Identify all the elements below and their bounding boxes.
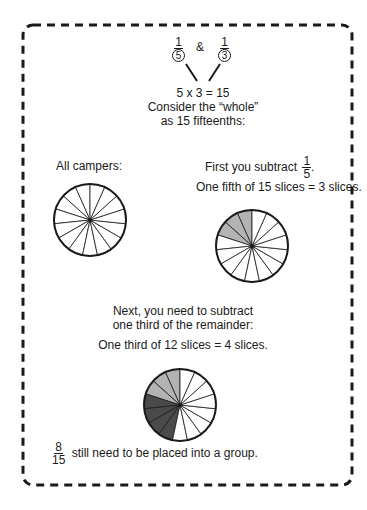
- all-campers-pie: [54, 184, 126, 256]
- subtract-third-pie: [144, 369, 216, 441]
- pie-charts: [0, 0, 367, 510]
- subtract-fifth-pie: [216, 210, 288, 282]
